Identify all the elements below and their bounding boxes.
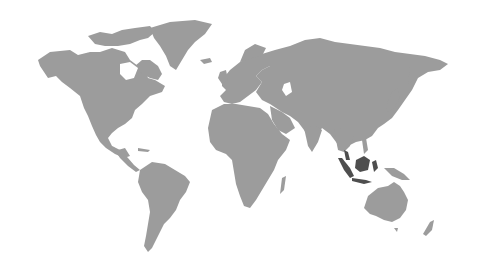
new-guinea: [384, 168, 410, 180]
highlight-malay-peninsula: [344, 150, 350, 160]
highlight-sumatra: [338, 158, 354, 178]
australia: [364, 182, 408, 222]
world-map: [0, 0, 485, 271]
tasmania: [394, 228, 398, 232]
highlight-borneo: [355, 156, 370, 172]
south-america: [138, 162, 190, 252]
madagascar: [280, 176, 286, 194]
iceland: [200, 58, 212, 64]
new-zealand: [423, 220, 434, 236]
highlight-sulawesi: [372, 160, 378, 172]
arctic-islands: [88, 26, 155, 46]
philippines: [362, 138, 368, 154]
india: [304, 126, 322, 152]
caribbean: [138, 148, 150, 152]
highlight-java: [352, 178, 372, 184]
